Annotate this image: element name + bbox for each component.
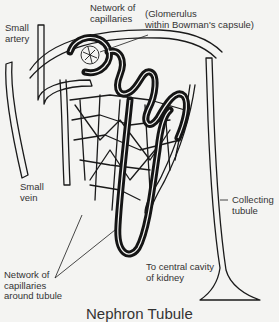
pointer-capillaries-1	[55, 215, 82, 278]
label-central-cavity: To central cavity of kidney	[146, 262, 214, 283]
label-network-of-capillaries: Network of capillaries	[90, 3, 135, 24]
label-collecting-tubule: Collecting tubule	[232, 195, 274, 216]
small-artery-vessel	[6, 62, 28, 178]
convoluted-tubule	[108, 51, 186, 138]
label-small-artery: Small artery	[5, 23, 29, 44]
figure-caption: Nephron Tubule	[86, 305, 193, 322]
label-small-vein: Small vein	[20, 182, 44, 203]
label-glomerulus: (Glomerulus within Bowman's capsule)	[145, 9, 254, 30]
pointer-capillaries-2	[55, 230, 115, 278]
small-vein-vessel	[60, 80, 70, 185]
label-network-around-tubule: Network of capillaries around tubule	[4, 270, 62, 302]
